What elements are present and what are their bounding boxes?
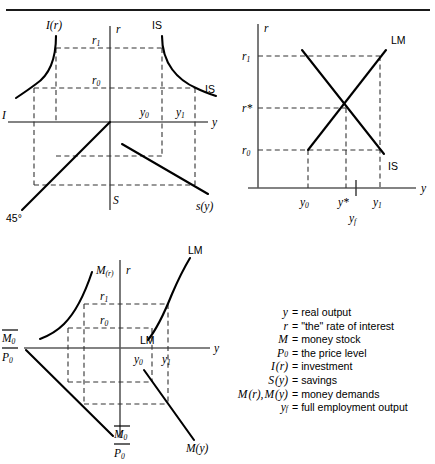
top-rule [6,9,430,11]
tick-label-y1: y1 [372,196,382,210]
label-curve-lm-top: LM [188,244,203,256]
label-axis-r: r [264,22,269,34]
legend-row: y = real output [196,306,435,320]
legend-definition: = the price level [292,347,367,361]
label-forty-five-deg: 45° [6,212,22,224]
curve-is [302,50,384,154]
curve-lm [308,50,386,150]
label-curve-is-end: IS [205,83,215,95]
legend-definition: = "the" rate of interest [292,320,394,334]
legend: y = real output r = "the" rate of intere… [196,306,435,415]
line-real-balances [26,350,113,436]
label-axis-i: I [1,109,7,121]
label-real-balance-bottom: M0 P0 [113,426,130,461]
line-forty-five [22,122,110,210]
label-axis-s: S [113,194,119,206]
tick-label-y1: y1 [175,106,185,120]
tick-label-ystar: y* [337,196,349,209]
legend-row: r = "the" rate of interest [196,320,435,334]
curve-investment-i-r [16,36,56,98]
legend-definition: = real output [292,306,351,320]
tick-label-y0: y0 [299,196,309,210]
label-axis-y: y [211,116,218,129]
legend-definition: = money stock [292,333,361,347]
legend-definition: = savings [292,374,337,388]
legend-definition: = money demands [292,388,379,402]
legend-definition: = investment [292,360,352,374]
legend-row: M = money stock [196,333,435,347]
label-curve-s-y: s(y) [196,200,213,213]
tick-label-r1: r1 [92,34,100,48]
legend-row: P0 = the price level [196,347,435,361]
tick-label-r0: r0 [100,314,108,328]
legend-row: S (y) = savings [196,374,435,388]
label-real-balance-left: M0 P0 [1,330,18,365]
label-curve-is: IS [388,160,398,172]
curve-money-demand-m-y [144,370,194,440]
legend-definition: = full employment output [292,401,408,415]
label-curve-lm: LM [391,34,406,46]
tick-label-y1: y1 [161,353,171,367]
legend-symbol: S (y) [196,374,292,388]
tick-label-y0: y0 [139,106,149,120]
tick-label-y0: y0 [133,353,143,367]
svg-text:M0: M0 [1,332,16,346]
svg-text:P0: P0 [113,447,125,461]
label-axis-y: y [420,182,427,195]
legend-symbol: M [196,333,292,347]
tick-label-r0: r0 [92,74,100,88]
label-curve-m-r: M(r) [95,264,114,278]
label-curve-lm-low: LM [140,334,155,346]
tick-label-r0: r0 [242,144,250,158]
label-curve-i-r: I(r) [45,19,62,32]
panel-investment-savings: I(r) IS r y I S IS s(y) 45° r1 r0 y0 y1 [0,14,232,226]
label-axis-r: r [126,264,131,276]
svg-text:P0: P0 [1,351,13,365]
legend-symbol: I (r) [196,360,292,374]
legend-row: yf = full employment output [196,401,435,415]
legend-row: I (r) = investment [196,360,435,374]
legend-symbol: P0 [196,347,292,362]
label-axis-r: r [116,23,121,35]
panel-islm: r y LM IS r1 r* r0 y0 y* y1 yf [236,14,435,226]
tick-label-r1: r1 [242,50,250,64]
label-curve-is-top: IS [152,19,162,31]
legend-row: M (r), M (y) = money demands [196,388,435,402]
svg-text:M0: M0 [113,428,128,442]
legend-symbol: r [196,320,292,334]
legend-symbol: y [196,306,292,320]
figure-canvas: I(r) IS r y I S IS s(y) 45° r1 r0 y0 y1 … [0,0,435,464]
curve-lm-upper [148,258,190,340]
tick-label-r1: r1 [100,290,108,304]
label-curve-m-y: M(y) [185,442,209,455]
tick-label-yf: yf [348,212,357,226]
tick-label-rstar: r* [242,102,252,114]
legend-symbol: yf [196,401,292,416]
legend-symbol: M (r), M (y) [196,388,292,402]
